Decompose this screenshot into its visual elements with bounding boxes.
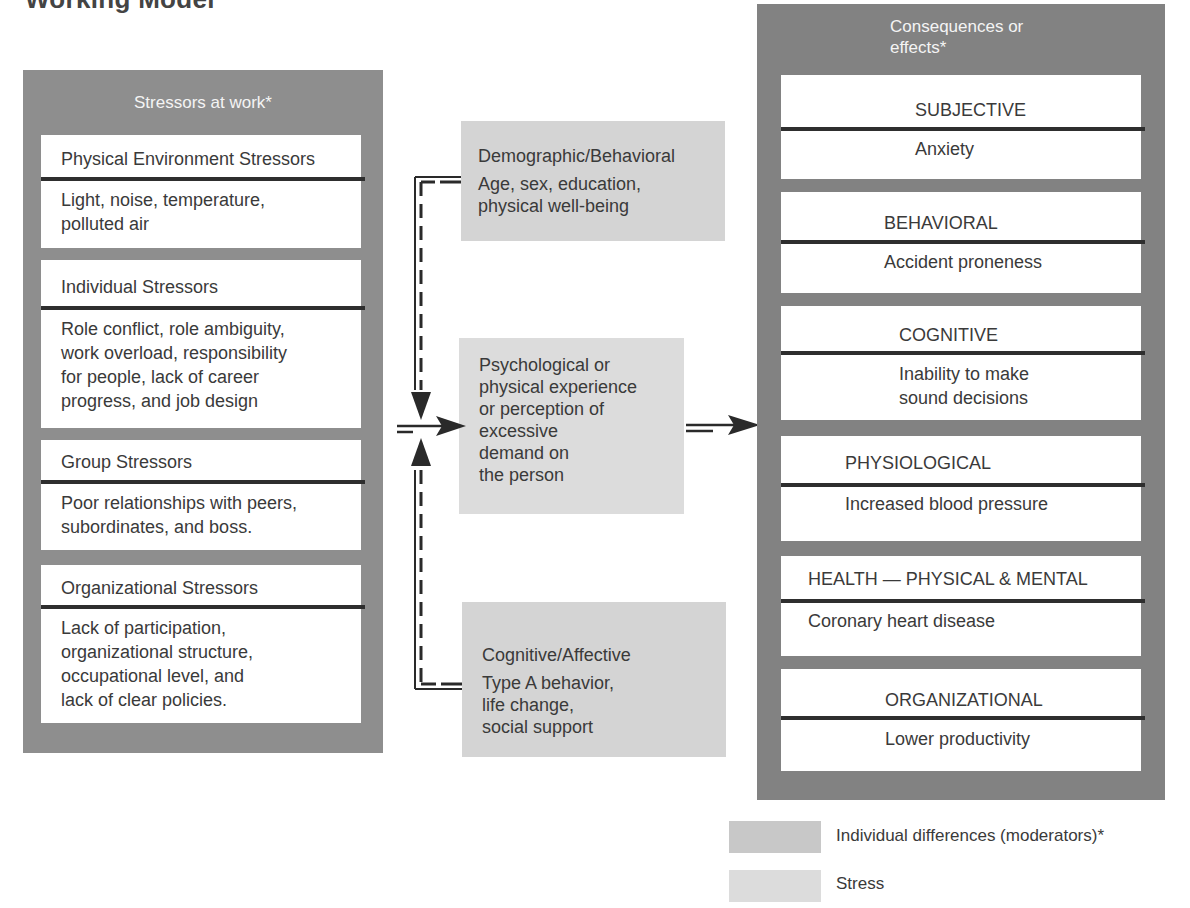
consequence-card-header: SUBJECTIVE [915,99,1026,121]
consequence-card-header: ORGANIZATIONAL [885,689,1043,711]
consequence-card-body: Accident proneness [884,250,1042,274]
consequence-card-behavioral: BEHAVIORAL Accident proneness [781,192,1141,293]
consequence-card-physiological: PHYSIOLOGICAL Increased blood pressure [781,436,1141,541]
legend-swatch-moderators [729,821,821,853]
divider [781,127,1145,131]
consequences-panel: Consequences or effects* SUBJECTIVE Anxi… [757,4,1165,800]
consequences-panel-title: Consequences or effects* [890,16,1023,58]
divider [781,240,1145,244]
consequence-card-header: PHYSIOLOGICAL [845,452,991,474]
consequence-card-body: Lower productivity [885,727,1030,751]
consequence-card-body: Increased blood pressure [845,492,1048,516]
consequence-card-health: HEALTH — PHYSICAL & MENTAL Coronary hear… [781,556,1141,656]
legend-swatch-stress [729,870,821,902]
divider [781,483,1145,487]
arrowhead-up-icon [411,438,431,466]
divider [781,716,1145,720]
legend-label-stress: Stress [836,874,884,894]
divider [781,599,1145,603]
consequence-card-body: Coronary heart disease [808,609,995,633]
consequence-card-body: Inability to make sound decisions [899,362,1029,410]
consequence-card-header: COGNITIVE [899,324,998,346]
consequence-card-cognitive: COGNITIVE Inability to make sound decisi… [781,306,1141,420]
legend-label-moderators: Individual differences (moderators)* [836,826,1104,846]
consequence-card-subjective: SUBJECTIVE Anxiety [781,75,1141,179]
arrowhead-down-icon [411,392,431,420]
consequence-card-organizational: ORGANIZATIONAL Lower productivity [781,669,1141,771]
consequence-card-header: BEHAVIORAL [884,212,998,234]
consequence-card-body: Anxiety [915,137,974,161]
divider [781,351,1145,355]
consequence-card-header: HEALTH — PHYSICAL & MENTAL [808,568,1088,590]
